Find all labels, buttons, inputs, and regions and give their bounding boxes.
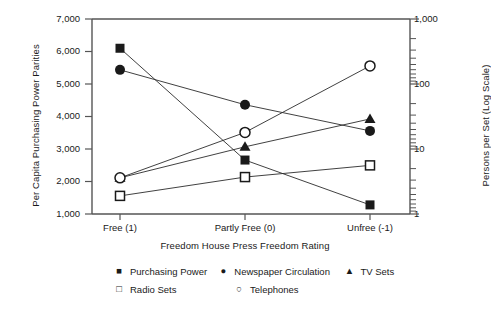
series-line-radio-sets xyxy=(120,165,370,196)
y-axis-right-ticks xyxy=(410,19,419,214)
y-axis-left-tick-2000: 2,000 xyxy=(34,175,80,186)
y-axis-left-tick-7000: 7,000 xyxy=(34,13,80,24)
y-axis-left-ticks xyxy=(85,19,92,214)
legend-row-2: □ Radio Sets ○ Telephones xyxy=(112,280,412,298)
chart-legend: ■ Purchasing Power ● Newspaper Circulati… xyxy=(112,262,412,298)
y-axis-right-tick-1: 1 xyxy=(414,208,460,219)
data-point-newspaper-circulation-0 xyxy=(115,65,125,75)
open-circle-icon: ○ xyxy=(232,284,246,294)
y-axis-right-tick-10: 10 xyxy=(414,143,460,154)
data-point-tv-sets-2 xyxy=(365,113,376,123)
y-axis-right-tick-1000: 1,000 xyxy=(414,13,460,24)
series-line-telephones xyxy=(120,66,370,178)
x-axis-tick-unfree: Unfree (-1) xyxy=(315,222,425,233)
y-axis-right-minor-ticks xyxy=(410,39,416,212)
data-point-telephones-0 xyxy=(115,173,125,183)
y-axis-left-tick-4000: 4,000 xyxy=(34,110,80,121)
data-point-purchasing-power-2 xyxy=(366,200,375,209)
legend-row-1: ■ Purchasing Power ● Newspaper Circulati… xyxy=(112,262,412,280)
y-axis-right-tick-100: 100 xyxy=(414,78,460,89)
y-axis-left-tick-6000: 6,000 xyxy=(34,45,80,56)
legend-item-purchasing-power: ■ Purchasing Power xyxy=(112,266,216,277)
data-point-tv-sets-0 xyxy=(115,172,126,182)
series-line-tv-sets xyxy=(120,119,370,178)
y-axis-right-title: Persons per Set (Log Scale) xyxy=(480,21,491,231)
legend-label-purchasing-power: Purchasing Power xyxy=(130,266,207,277)
open-square-icon: □ xyxy=(112,284,126,294)
data-point-telephones-2 xyxy=(365,61,375,71)
legend-label-radio-sets: Radio Sets xyxy=(130,284,176,295)
data-point-newspaper-circulation-1 xyxy=(240,100,250,110)
legend-label-newspaper-circulation: Newspaper Circulation xyxy=(234,266,330,277)
x-axis-tick-free: Free (1) xyxy=(65,222,175,233)
series-line-purchasing-power xyxy=(120,48,370,205)
filled-square-icon: ■ xyxy=(112,266,126,276)
legend-item-telephones: ○ Telephones xyxy=(232,284,377,295)
data-point-purchasing-power-1 xyxy=(241,156,250,165)
data-point-radio-sets-0 xyxy=(116,191,125,200)
series-layer xyxy=(115,44,376,210)
data-point-radio-sets-1 xyxy=(241,173,250,182)
filled-circle-icon: ● xyxy=(216,266,230,276)
y-axis-left-tick-1000: 1,000 xyxy=(34,208,80,219)
legend-item-radio-sets: □ Radio Sets xyxy=(112,284,232,295)
legend-label-tv-sets: TV Sets xyxy=(360,266,394,277)
y-axis-left-tick-5000: 5,000 xyxy=(34,78,80,89)
data-point-radio-sets-2 xyxy=(366,161,375,170)
y-axis-left-tick-3000: 3,000 xyxy=(34,143,80,154)
legend-item-newspaper-circulation: ● Newspaper Circulation xyxy=(216,266,342,277)
legend-item-tv-sets: ▲ TV Sets xyxy=(342,266,412,277)
x-axis-ticks xyxy=(120,214,370,220)
x-axis-title: Freedom House Press Freedom Rating xyxy=(85,240,405,251)
filled-triangle-icon: ▲ xyxy=(342,266,356,276)
legend-label-telephones: Telephones xyxy=(250,284,299,295)
data-point-newspaper-circulation-2 xyxy=(365,126,375,136)
data-point-tv-sets-1 xyxy=(240,141,251,151)
x-axis-tick-partly-free: Partly Free (0) xyxy=(190,222,300,233)
data-point-telephones-1 xyxy=(240,127,250,137)
series-line-newspaper-circulation xyxy=(120,70,370,131)
data-point-purchasing-power-0 xyxy=(116,44,125,53)
